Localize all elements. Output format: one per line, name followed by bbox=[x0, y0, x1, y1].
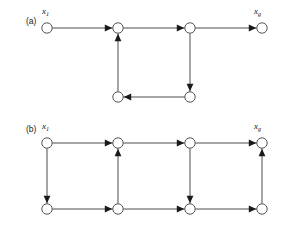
arrowhead-up-icon bbox=[115, 149, 122, 157]
panel-label-a: (a) bbox=[26, 16, 36, 26]
arrowhead-up-icon bbox=[115, 34, 122, 42]
node bbox=[185, 23, 195, 33]
arrowhead-right-icon bbox=[105, 140, 113, 147]
start-node bbox=[42, 23, 52, 33]
arrowhead-right-icon bbox=[177, 206, 185, 213]
node bbox=[113, 138, 123, 148]
node bbox=[113, 92, 123, 102]
panel-a-start-node-label: x1 bbox=[42, 6, 49, 16]
arrowhead-left-icon bbox=[124, 94, 132, 101]
node bbox=[113, 204, 123, 214]
arrowhead-right-icon bbox=[249, 25, 256, 32]
arrowhead-right-icon bbox=[177, 25, 185, 32]
node bbox=[113, 23, 123, 33]
arrowhead-right-icon bbox=[249, 206, 256, 213]
figure-canvas: (a) (b) x1 xg x1 xg bbox=[0, 0, 283, 229]
goal-node bbox=[257, 138, 267, 148]
arrowhead-right-icon bbox=[105, 206, 113, 213]
arrowhead-right-icon bbox=[105, 25, 113, 32]
arrowhead-right-icon bbox=[249, 140, 256, 147]
node bbox=[185, 204, 195, 214]
panel-a-goal-node-label: xg bbox=[254, 6, 261, 16]
panel-label-b: (b) bbox=[26, 124, 36, 134]
arrowhead-down-icon bbox=[187, 196, 194, 204]
arrowhead-down-icon bbox=[187, 84, 194, 92]
goal-node bbox=[257, 23, 267, 33]
panel-b-start-node-label: x1 bbox=[42, 121, 49, 131]
node bbox=[185, 138, 195, 148]
start-node bbox=[42, 138, 52, 148]
node bbox=[42, 204, 52, 214]
edges-layer bbox=[44, 25, 266, 213]
arrowhead-down-icon bbox=[44, 196, 51, 204]
arrowhead-right-icon bbox=[177, 140, 185, 147]
directed-graph-diagram bbox=[0, 0, 283, 229]
node bbox=[257, 204, 267, 214]
panel-b-goal-node-label: xg bbox=[254, 121, 261, 131]
node bbox=[185, 92, 195, 102]
nodes-layer bbox=[42, 23, 267, 214]
arrowhead-up-icon bbox=[259, 149, 266, 157]
